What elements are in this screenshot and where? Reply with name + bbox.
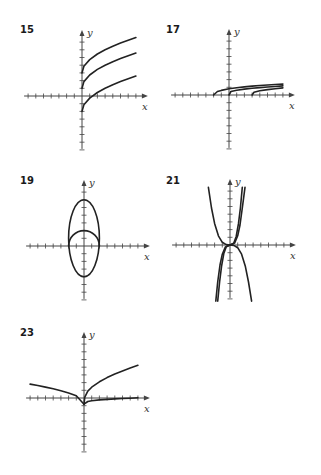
- graph-number-label: 17: [166, 24, 180, 35]
- figure-canvas: 15 xy 17 xy 19 xy 21 xy 23 xy: [0, 0, 321, 475]
- y-axis-arrow: [82, 332, 87, 338]
- graph-number-label: 23: [20, 327, 34, 338]
- y-axis-label: y: [234, 176, 241, 187]
- x-axis-arrow: [290, 243, 296, 248]
- y-axis-label: y: [86, 27, 93, 38]
- graph-19: 19 xy: [20, 175, 150, 300]
- x-axis-label: x: [144, 251, 150, 262]
- series-curve-2: [82, 53, 136, 88]
- y-axis-label: y: [233, 26, 240, 37]
- x-axis-arrow: [289, 93, 295, 98]
- series-curve-left: [30, 384, 84, 404]
- graph-15: 15 xy: [20, 24, 148, 150]
- graph-number-label: 21: [166, 175, 180, 186]
- graph-17: 17 xy: [166, 24, 295, 149]
- graph-number-label: 15: [20, 24, 34, 35]
- y-axis-arrow: [82, 180, 87, 186]
- y-axis-arrow: [227, 29, 232, 35]
- y-axis-label: y: [88, 329, 95, 340]
- y-axis-label: y: [88, 177, 95, 188]
- x-axis-arrow: [144, 396, 150, 401]
- x-axis-label: x: [290, 250, 296, 261]
- x-axis-label: x: [142, 101, 148, 112]
- y-axis-arrow: [228, 179, 233, 185]
- graph-23: 23 xy: [20, 327, 150, 452]
- y-axis-arrow: [80, 30, 85, 36]
- x-axis-arrow: [144, 244, 150, 249]
- x-axis-arrow: [142, 94, 148, 99]
- x-axis-label: x: [289, 100, 295, 111]
- graph-21: 21 xy: [166, 175, 296, 301]
- graph-number-label: 19: [20, 175, 34, 186]
- x-axis-label: x: [144, 403, 150, 414]
